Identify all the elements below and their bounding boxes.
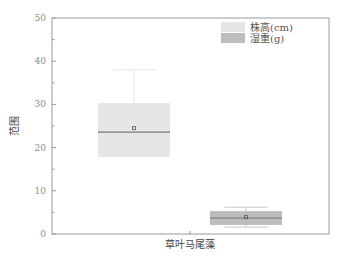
y-tick-label: 30 [35, 99, 47, 109]
box-body [98, 103, 170, 157]
y-tick-label: 0 [40, 229, 46, 239]
y-tick-label: 10 [35, 186, 47, 196]
box-weight [210, 207, 282, 227]
legend-swatch-height [221, 22, 245, 32]
y-axis: 01020304050 [35, 13, 56, 239]
plot-area [52, 18, 329, 234]
y-axis-title: 范围 [8, 116, 20, 136]
legend: 株高(cm) 湿重(g) [221, 21, 293, 44]
y-tick-label: 50 [35, 13, 47, 23]
legend-swatch-weight [221, 33, 245, 43]
box-plot-chart: 01020304050 范围 草叶马尾藻 株高(cm) 湿重(g) [0, 0, 343, 258]
box-series [98, 70, 282, 227]
x-category-label: 草叶马尾藻 [165, 238, 215, 250]
legend-label-height: 株高(cm) [250, 21, 293, 33]
y-tick-label: 40 [35, 56, 47, 66]
legend-label-weight: 湿重(g) [250, 32, 284, 44]
box-height [98, 70, 170, 157]
y-tick-label: 20 [35, 143, 47, 153]
